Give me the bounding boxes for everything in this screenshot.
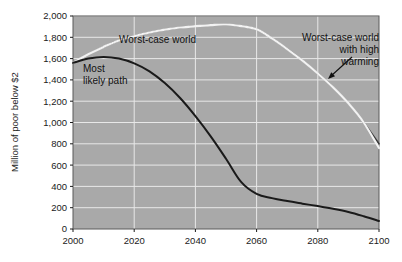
- annotation-line: with high: [339, 44, 379, 55]
- annotation-label: Worst-case world: [119, 34, 196, 45]
- y-tick-label: 2,000: [43, 10, 67, 21]
- y-tick-label: 0: [62, 223, 67, 234]
- y-tick-label: 1,400: [43, 74, 67, 85]
- y-tick-label: 1,200: [43, 96, 67, 107]
- x-tick-label: 2100: [368, 235, 389, 246]
- y-tick-label: 1,800: [43, 32, 67, 43]
- annotation-worst-case-world: Worst-case world: [119, 34, 196, 45]
- x-tick-label: 2000: [62, 235, 83, 246]
- y-tick-label: 800: [51, 138, 67, 149]
- y-tick-label: 1,000: [43, 117, 67, 128]
- chart-canvas: 02004006008001,0001,2001,4001,6001,8002,…: [0, 0, 402, 262]
- chart-figure: 02004006008001,0001,2001,4001,6001,8002,…: [0, 0, 402, 262]
- x-tick-label: 2060: [246, 235, 267, 246]
- annotation-line: Worst-case world: [302, 32, 379, 43]
- annotation-line: likely path: [83, 75, 127, 86]
- y-tick-label: 200: [51, 202, 67, 213]
- y-tick-label: 1,600: [43, 53, 67, 64]
- annotation-line: Most: [83, 63, 105, 74]
- annotation-line: Worst-case world: [119, 34, 196, 45]
- x-axis: 200020202040206020802100: [62, 229, 389, 246]
- x-tick-label: 2020: [124, 235, 145, 246]
- y-tick-label: 400: [51, 181, 67, 192]
- x-tick-label: 2080: [307, 235, 328, 246]
- x-tick-label: 2040: [185, 235, 206, 246]
- y-axis: 02004006008001,0001,2001,4001,6001,8002,…: [43, 10, 73, 234]
- y-tick-label: 600: [51, 160, 67, 171]
- y-axis-title: Million of poor below $2: [9, 72, 20, 172]
- annotation-line: warming: [340, 56, 379, 67]
